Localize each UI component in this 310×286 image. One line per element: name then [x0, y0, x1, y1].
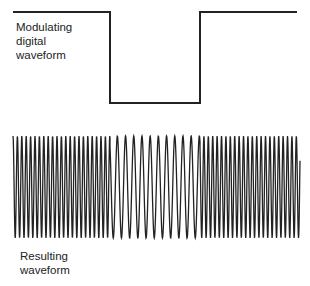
resulting-waveform-label: Resulting waveform	[20, 249, 70, 277]
label-line: Resulting	[20, 249, 70, 263]
label-line: waveform	[16, 48, 72, 62]
modulating-waveform-label: Modulating digital waveform	[16, 20, 72, 62]
label-line: waveform	[20, 263, 70, 277]
label-line: digital	[16, 34, 72, 48]
label-line: Modulating	[16, 20, 72, 34]
resulting-modulated-wave	[13, 136, 300, 238]
